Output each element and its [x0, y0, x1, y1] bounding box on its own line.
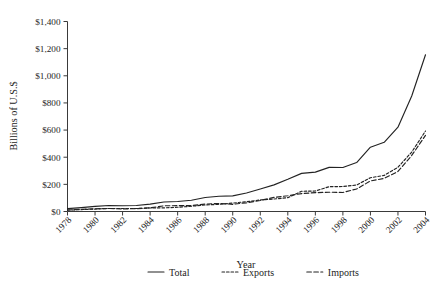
x-tick-label: 1980	[81, 215, 101, 235]
x-tick-label: 1982	[108, 215, 128, 235]
series-line-total	[68, 55, 426, 209]
y-axis-ticks: $0$200$400$600$800$1,000$1,200$1,400	[35, 17, 67, 217]
legend-label-imports: Imports	[328, 267, 359, 278]
x-tick-label: 2004	[411, 215, 431, 235]
y-tick-label: $600	[42, 125, 61, 135]
x-tick-label: 1990	[219, 215, 239, 235]
x-tick-label: 1984	[136, 215, 156, 235]
chart-canvas: $0$200$400$600$800$1,000$1,200$1,400 197…	[0, 0, 442, 293]
data-series-group	[68, 55, 426, 210]
y-axis-title: Billions of U.S.$	[8, 81, 19, 150]
y-tick-label: $800	[42, 98, 61, 108]
y-tick-label: $1,200	[35, 44, 61, 54]
y-tick-label: $200	[42, 180, 61, 190]
x-tick-label: 1996	[301, 215, 321, 235]
x-tick-label: 1988	[191, 215, 211, 235]
legend-label-exports: Exports	[243, 267, 274, 278]
y-tick-label: $1,000	[35, 71, 61, 81]
y-tick-label: $400	[42, 153, 61, 163]
x-axis: 1978198019821984198619881990199219941996…	[53, 212, 431, 235]
chart-figure: $0$200$400$600$800$1,000$1,200$1,400 197…	[0, 0, 442, 293]
x-axis-ticks: 1978198019821984198619881990199219941996…	[53, 212, 431, 235]
x-tick-label: 1998	[329, 215, 349, 235]
x-tick-label: 1986	[164, 215, 184, 235]
x-tick-label: 2002	[384, 215, 404, 235]
y-tick-label: $1,400	[35, 17, 61, 27]
x-tick-label: 1978	[53, 215, 73, 235]
series-line-exports	[68, 131, 426, 210]
x-tick-label: 2000	[356, 215, 376, 235]
x-tick-label: 1992	[246, 215, 266, 235]
y-axis: $0$200$400$600$800$1,000$1,200$1,400	[35, 17, 67, 217]
y-tick-label: $0	[51, 207, 61, 217]
x-tick-label: 1994	[274, 215, 294, 235]
legend-label-total: Total	[169, 267, 190, 278]
chart-legend: TotalExportsImports	[148, 267, 359, 278]
